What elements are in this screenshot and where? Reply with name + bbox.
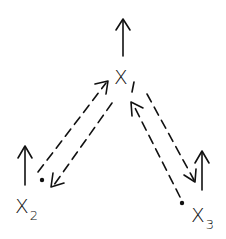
edge-x1-to-x3 bbox=[147, 94, 196, 182]
x3-subscript: 3 bbox=[206, 217, 214, 232]
node-x1-label: X bbox=[114, 67, 128, 87]
x3-up-arrow-icon bbox=[195, 151, 209, 190]
x1-letter: X bbox=[114, 65, 128, 89]
x2-letter: X bbox=[15, 194, 29, 218]
x1-up-arrow-icon bbox=[116, 19, 130, 56]
x2-up-arrow-icon bbox=[18, 146, 32, 185]
edge-x3-to-x1 bbox=[131, 102, 180, 197]
arrowhead-icon bbox=[131, 102, 143, 116]
x3-dot bbox=[180, 201, 184, 205]
x3-letter: X bbox=[191, 203, 205, 227]
x2-subscript: 2 bbox=[30, 208, 38, 223]
x2-dot bbox=[40, 178, 44, 182]
node-x2-label: X2 bbox=[15, 196, 37, 216]
node-x3-label: X3 bbox=[191, 205, 213, 225]
edge-x1-to-x2 bbox=[51, 103, 112, 187]
x1-subscript-stroke bbox=[132, 82, 134, 92]
